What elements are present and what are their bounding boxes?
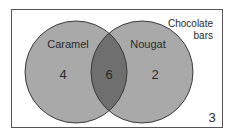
nougat-only-count: 2 [151,67,158,82]
universe-label-line2: bars [194,30,213,41]
outside-count: 3 [208,110,215,125]
caramel-label: Caramel [47,38,89,50]
universe-label-line1: Chocolate [168,18,213,29]
caramel-only-count: 4 [59,67,66,82]
intersection-count: 6 [105,67,112,82]
nougat-label: Nougat [130,38,165,50]
venn-diagram: Chocolate bars Caramel Nougat 4 6 2 3 [0,0,233,134]
